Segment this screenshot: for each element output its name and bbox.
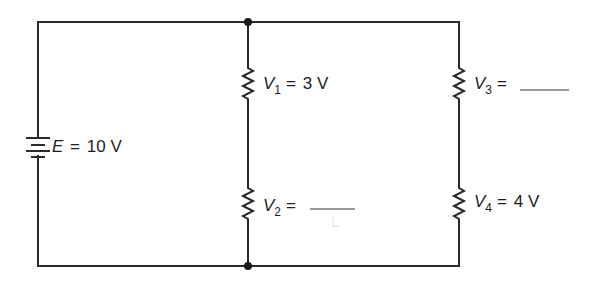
v3-label: V3= [474, 74, 507, 97]
v4-value: 4 V [514, 192, 540, 211]
junction-bottom-dot [244, 262, 252, 270]
source-symbol: E [52, 137, 64, 156]
v4-label: V4= 4 V [474, 192, 540, 215]
battery-icon [26, 138, 50, 157]
resistor-r4-icon [454, 185, 464, 223]
v2-label: V2= [263, 196, 296, 219]
v1-label: V1= 3 V [263, 74, 329, 97]
circuit-diagram: E = 10 V V1= 3 V V2= V3= V4= 4 V [0, 0, 596, 295]
v1-value: 3 V [303, 74, 329, 93]
resistor-r3-icon [454, 66, 464, 101]
resistor-r1-icon [243, 66, 253, 101]
source-label: E = 10 V [52, 137, 122, 156]
resistor-r2-icon [243, 185, 253, 222]
source-equals: = [70, 137, 80, 156]
source-value: 10 V [87, 137, 123, 156]
junction-top-dot [244, 18, 252, 26]
